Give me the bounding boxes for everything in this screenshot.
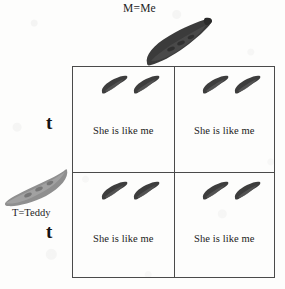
banana-icon [133, 75, 160, 94]
banana-icon [202, 75, 229, 94]
punnett-square-diagram: M=Me T=Teddy t t [0, 0, 285, 289]
punnett-cell-bottom-right: She is like me [174, 172, 275, 277]
punnett-cell-top-left: She is like me [73, 67, 174, 172]
punnett-grid: She is like me She is like me [72, 66, 275, 278]
cell-caption: She is like me [175, 233, 275, 244]
banana-icon [133, 181, 160, 200]
parent-top-label: M=Me [0, 2, 285, 14]
cell-caption: She is like me [73, 125, 174, 136]
banana-parent-top [143, 16, 219, 66]
banana-icon [234, 75, 261, 94]
cell-caption: She is like me [73, 233, 174, 244]
offspring-group [175, 75, 275, 109]
banana-icon [101, 75, 128, 94]
allele-label-row-bottom: t [46, 222, 52, 241]
allele-label-row-top: t [46, 113, 52, 132]
punnett-cell-bottom-left: She is like me [73, 172, 174, 277]
banana-icon [234, 181, 261, 200]
offspring-group [175, 181, 275, 215]
offspring-group [73, 181, 174, 215]
offspring-group [73, 75, 174, 109]
cell-caption: She is like me [175, 125, 275, 136]
banana-parent-left [4, 168, 70, 208]
banana-icon [4, 168, 70, 208]
banana-icon [101, 181, 128, 200]
punnett-cell-top-right: She is like me [174, 67, 275, 172]
parent-left-label: T=Teddy [12, 207, 50, 218]
banana-icon [143, 16, 219, 66]
banana-icon [202, 181, 229, 200]
